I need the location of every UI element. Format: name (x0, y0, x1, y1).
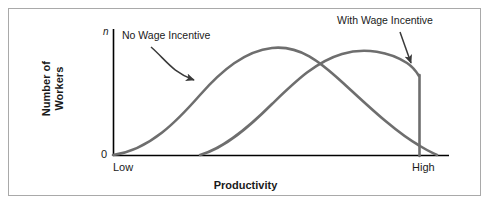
y-axis-title-line-2: Workers (53, 67, 65, 111)
chart-figure: n 0 Low High No Wage Incentive With Wage… (0, 0, 491, 210)
x-axis-tick-label-high: High (412, 162, 435, 173)
no-wage-incentive-arrow-icon (151, 47, 194, 80)
y-axis-title-line-1: Number of (40, 61, 52, 116)
y-axis-title: Number of Workers (40, 29, 65, 149)
x-axis-title: Productivity (0, 180, 491, 191)
x-axis-tick-label-low: Low (113, 162, 133, 173)
y-axis-zero-tick-label: 0 (101, 149, 107, 160)
with-wage-incentive-arrow-icon (400, 32, 411, 63)
no-wage-incentive-label: No Wage Incentive (122, 30, 210, 41)
y-axis-max-symbol: n (103, 27, 109, 37)
with-wage-incentive-label: With Wage Incentive (337, 15, 433, 26)
series-line-with-wage-incentive (200, 51, 419, 155)
